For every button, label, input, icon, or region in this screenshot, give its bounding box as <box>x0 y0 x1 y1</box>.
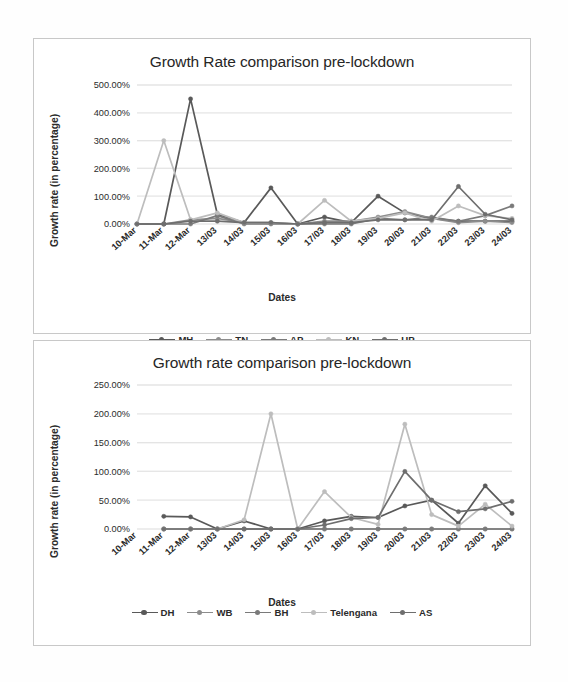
series-marker-Telengana <box>456 524 460 528</box>
y-tick-label: 0.00% <box>104 219 130 229</box>
y-tick-label: 250.00% <box>94 380 130 390</box>
series-marker-MH <box>322 215 326 219</box>
chart-plot-top: 0.00%100.00%200.00%300.00%400.00%500.00%… <box>34 39 532 289</box>
series-marker-BH <box>483 527 487 531</box>
x-tick-label: 19/03 <box>356 530 380 553</box>
y-tick-label: 150.00% <box>94 438 130 448</box>
series-marker-Telengana <box>430 513 434 517</box>
series-marker-Telengana <box>376 522 380 526</box>
series-marker-BH <box>322 527 326 531</box>
x-tick-label: 23/03 <box>463 530 487 553</box>
series-marker-Telengana <box>403 422 407 426</box>
series-marker-MH <box>376 194 380 198</box>
series-marker-AS <box>430 498 434 502</box>
series-marker-UP <box>188 219 192 223</box>
series-line-MH <box>137 99 512 224</box>
series-marker-AS <box>403 469 407 473</box>
series-marker-BH <box>349 527 353 531</box>
series-marker-UP <box>322 221 326 225</box>
series-marker-AS <box>322 523 326 527</box>
legend-swatch-icon <box>390 608 416 617</box>
series-marker-KN <box>215 211 219 215</box>
series-marker-AS <box>376 515 380 519</box>
series-marker-Telengana <box>269 412 273 416</box>
series-marker-KN <box>403 211 407 215</box>
series-marker-DH <box>188 515 192 519</box>
series-marker-AS <box>510 499 514 503</box>
series-marker-MH <box>188 97 192 101</box>
x-tick-label: 19/03 <box>356 225 380 248</box>
x-tick-label: 18/03 <box>329 225 353 248</box>
series-marker-DH <box>403 504 407 508</box>
legend-swatch-icon <box>245 608 271 617</box>
x-tick-label: 22/03 <box>436 530 460 553</box>
series-marker-Telengana <box>242 518 246 522</box>
series-marker-DH <box>510 511 514 515</box>
x-tick-label: 16/03 <box>275 225 299 248</box>
x-tick-label: 12-Mar <box>163 530 192 558</box>
series-marker-AS <box>162 527 166 531</box>
x-tick-label: 15/03 <box>248 225 272 248</box>
series-marker-UP <box>296 222 300 226</box>
legend-label: DH <box>161 607 175 618</box>
legend-label: Telengana <box>330 607 377 618</box>
series-marker-AS <box>269 527 273 531</box>
series-marker-TN <box>483 219 487 223</box>
series-marker-AP <box>510 204 514 208</box>
series-marker-Telengana <box>483 502 487 506</box>
series-marker-UP <box>456 184 460 188</box>
chart-plot-bottom: 0.00%50.00%100.00%150.00%200.00%250.00%1… <box>34 341 532 596</box>
x-tick-label: 22/03 <box>436 225 460 248</box>
series-line-KN <box>137 141 512 224</box>
legend-item-Telengana[interactable]: Telengana <box>301 607 377 618</box>
series-marker-KN <box>162 139 166 143</box>
x-tick-label: 11-Mar <box>137 225 166 252</box>
y-tick-label: 0.00% <box>104 524 130 534</box>
legend-item-DH[interactable]: DH <box>132 607 175 618</box>
x-axis-title-top: Dates <box>34 292 530 303</box>
x-tick-label: 24/03 <box>490 225 514 248</box>
x-tick-label: 13/03 <box>195 225 219 248</box>
series-marker-Telengana <box>510 524 514 528</box>
x-tick-label: 13/03 <box>195 530 219 553</box>
series-marker-UP <box>376 218 380 222</box>
y-tick-label: 100.00% <box>94 192 130 202</box>
legend-label: BH <box>274 607 288 618</box>
y-tick-label: 50.00% <box>99 496 130 506</box>
y-tick-label: 100.00% <box>94 467 130 477</box>
y-tick-label: 500.00% <box>94 80 130 90</box>
series-marker-AP <box>456 219 460 223</box>
series-marker-DH <box>322 519 326 523</box>
legend-item-AS[interactable]: AS <box>390 607 432 618</box>
series-marker-DH <box>162 514 166 518</box>
x-tick-label: 11-Mar <box>137 530 166 557</box>
series-marker-AS <box>188 527 192 531</box>
x-tick-label: 14/03 <box>222 225 246 248</box>
x-tick-label: 16/03 <box>275 530 299 553</box>
x-tick-label: 15/03 <box>248 530 272 553</box>
series-marker-KN <box>322 198 326 202</box>
series-marker-UP <box>242 221 246 225</box>
legend-item-BH[interactable]: BH <box>245 607 288 618</box>
series-marker-BH <box>430 527 434 531</box>
page-root: Growth Rate comparison pre-lockdown Grow… <box>0 0 568 682</box>
chart-panel-bottom: Growth rate comparison pre-lockdown Grow… <box>33 340 531 646</box>
y-tick-label: 300.00% <box>94 136 130 146</box>
x-tick-label: 23/03 <box>463 225 487 248</box>
series-marker-KN <box>456 204 460 208</box>
x-tick-label: 14/03 <box>222 530 246 553</box>
series-marker-AS <box>215 527 219 531</box>
series-marker-Telengana <box>322 489 326 493</box>
x-tick-label: 21/03 <box>409 530 433 553</box>
series-marker-AS <box>456 510 460 514</box>
series-marker-AS <box>242 527 246 531</box>
series-marker-AS <box>483 507 487 511</box>
series-marker-UP <box>349 221 353 225</box>
legend-item-WB[interactable]: WB <box>187 607 232 618</box>
series-marker-UP <box>430 218 434 222</box>
series-marker-UP <box>215 219 219 223</box>
series-marker-MH <box>269 186 273 190</box>
chart-panel-top: Growth Rate comparison pre-lockdown Grow… <box>33 38 531 334</box>
series-marker-UP <box>162 222 166 226</box>
series-marker-AS <box>296 527 300 531</box>
